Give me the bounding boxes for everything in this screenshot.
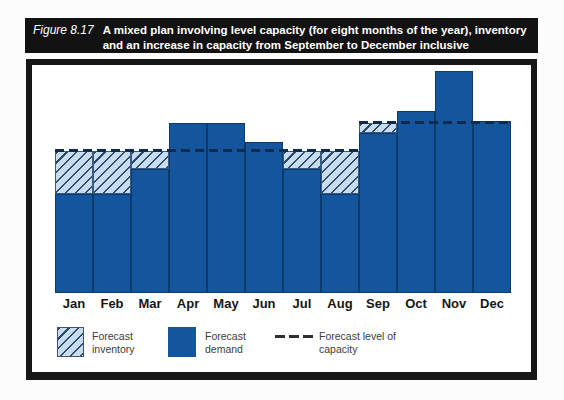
- month-label-dec: Dec: [473, 296, 511, 311]
- inventory-hatch-swatch: [57, 327, 84, 357]
- month-label-apr: Apr: [169, 296, 207, 311]
- capacity-legend-label: Forecast level of capacity: [319, 330, 411, 356]
- demand-legend-label: Forecast demand: [205, 330, 263, 356]
- inventory-area-jul: [283, 151, 321, 169]
- month-label-jul: Jul: [283, 296, 321, 311]
- legend-item-capacity: Forecast level of capacity: [275, 327, 411, 356]
- demand-bar-dec: [473, 121, 511, 293]
- month-label-aug: Aug: [321, 296, 359, 311]
- month-label-jun: Jun: [245, 296, 283, 311]
- month-label-nov: Nov: [435, 296, 473, 311]
- month-label-oct: Oct: [397, 296, 435, 311]
- demand-bar-nov: [435, 71, 473, 293]
- demand-bar-mar: [131, 169, 169, 293]
- month-label-feb: Feb: [93, 296, 131, 311]
- demand-bar-jul: [283, 169, 321, 293]
- chart-frame: JanFebMarAprMayJunJulAugSepOctNovDec For…: [26, 59, 537, 380]
- demand-bar-aug: [321, 194, 359, 293]
- demand-bar-oct: [397, 111, 435, 293]
- figure-title-line2: and an increase in capacity from Septemb…: [103, 39, 469, 51]
- demand-bar-feb: [93, 194, 131, 293]
- figure-title-line1: A mixed plan involving level capacity (f…: [103, 24, 527, 36]
- figure-number: Figure 8.17: [33, 23, 94, 38]
- figure-title: A mixed plan involving level capacity (f…: [103, 23, 527, 52]
- figure-page: Figure 8.17 A mixed plan involving level…: [0, 0, 564, 400]
- demand-bar-jan: [55, 194, 93, 293]
- inventory-area-aug: [321, 151, 359, 194]
- month-label-jan: Jan: [55, 296, 93, 311]
- inventory-legend-label: Forecast inventory: [92, 330, 150, 356]
- month-label-mar: Mar: [131, 296, 169, 311]
- legend-item-demand: Forecast demand: [168, 327, 263, 357]
- inventory-area-jan: [55, 151, 93, 194]
- demand-color-swatch: [168, 327, 196, 357]
- figure-title-bar: Figure 8.17 A mixed plan involving level…: [25, 18, 538, 53]
- chart-area: JanFebMarAprMayJunJulAugSepOctNovDec: [32, 65, 531, 372]
- month-label-sep: Sep: [359, 296, 397, 311]
- demand-bar-sep: [359, 133, 397, 293]
- month-label-may: May: [207, 296, 245, 311]
- capacity-line-segment: [359, 121, 511, 124]
- capacity-line-segment: [55, 149, 359, 152]
- legend-item-inventory: Forecast inventory: [57, 327, 150, 357]
- inventory-area-sep: [359, 123, 397, 133]
- capacity-dash-swatch: [275, 335, 313, 338]
- inventory-area-feb: [93, 151, 131, 194]
- inventory-area-mar: [131, 151, 169, 169]
- demand-bar-jun: [245, 142, 283, 293]
